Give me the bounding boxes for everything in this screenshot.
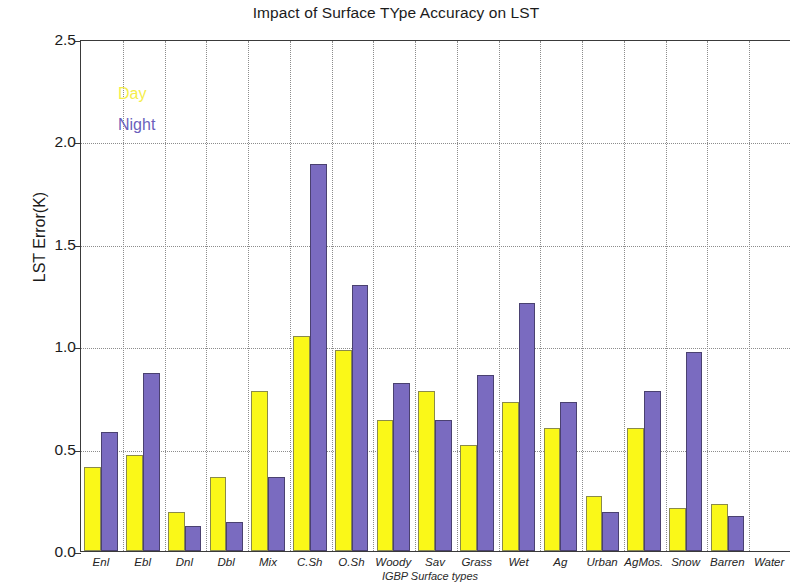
bar-night <box>644 391 661 551</box>
bar-day <box>418 391 435 551</box>
bar-group <box>206 41 248 551</box>
bar-day <box>210 477 227 551</box>
bar-group <box>290 41 332 551</box>
bar-group <box>624 41 666 551</box>
x-axis-label: IGBP Surface types <box>80 570 780 582</box>
bar-day <box>460 445 477 551</box>
bar-group <box>582 41 624 551</box>
bar-night <box>602 512 619 551</box>
y-tick-label: 1.0 <box>6 338 76 356</box>
plot-area <box>80 40 790 552</box>
bar-group <box>332 41 374 551</box>
legend-item-night: Night <box>118 109 155 140</box>
bar-day <box>586 496 603 551</box>
y-tick-label: 1.5 <box>6 236 76 254</box>
bar-day <box>502 402 519 552</box>
bar-night <box>435 420 452 551</box>
bar-night <box>519 303 536 551</box>
bar-night <box>268 477 285 551</box>
bar-night <box>560 402 577 552</box>
bar-group <box>707 41 749 551</box>
bar-day <box>377 420 394 551</box>
bar-day <box>544 428 561 551</box>
bar-group <box>165 41 207 551</box>
bar-day <box>168 512 185 551</box>
x-tick-label: C.Sh <box>297 556 323 568</box>
x-tick-label: Snow <box>671 556 700 568</box>
x-tick-label: Dnl <box>176 556 193 568</box>
x-tick-label: Sav <box>425 556 445 568</box>
bar-series-container <box>81 41 790 551</box>
bar-night <box>143 373 160 551</box>
bar-group <box>540 41 582 551</box>
x-tick-label: Woody <box>375 556 411 568</box>
bar-group <box>666 41 708 551</box>
bar-group <box>457 41 499 551</box>
bar-night <box>310 164 327 551</box>
x-tick-label: Mix <box>259 556 277 568</box>
bar-group <box>749 41 791 551</box>
y-tick-label: 0.0 <box>6 543 76 561</box>
x-tick-label: Dbl <box>218 556 235 568</box>
bar-day <box>293 336 310 551</box>
x-tick-label: Water <box>754 556 784 568</box>
bar-night <box>101 432 118 551</box>
x-tick-label: Barren <box>710 556 745 568</box>
y-tick-label: 0.5 <box>6 441 76 459</box>
chart-title: Impact of Surface TYpe Accuracy on LST <box>0 4 792 22</box>
bar-night <box>393 383 410 551</box>
x-tick-label: Ag <box>553 556 567 568</box>
x-tick-label: O.Sh <box>338 556 364 568</box>
bar-group <box>81 41 123 551</box>
bar-night <box>185 526 202 551</box>
bar-night <box>686 352 703 551</box>
legend-item-day: Day <box>118 78 155 109</box>
bar-day <box>84 467 101 551</box>
bar-day <box>711 504 728 551</box>
chart-legend: Day Night <box>118 78 155 140</box>
x-tick-label: Ebl <box>134 556 151 568</box>
bar-day <box>251 391 268 551</box>
bar-night <box>477 375 494 551</box>
x-tick-label: Wet <box>508 556 528 568</box>
bar-night <box>352 285 369 551</box>
x-tick-label: Urban <box>586 556 617 568</box>
x-tick-label: Enl <box>93 556 110 568</box>
bar-day <box>627 428 644 551</box>
bar-day <box>669 508 686 551</box>
chart-figure: Impact of Surface TYpe Accuracy on LST L… <box>0 0 792 588</box>
bar-night <box>226 522 243 551</box>
bar-day <box>335 350 352 551</box>
x-tick-label: Grass <box>461 556 492 568</box>
y-tick-label: 2.0 <box>6 133 76 151</box>
bar-group <box>248 41 290 551</box>
bar-night <box>728 516 745 551</box>
y-tick-label: 2.5 <box>6 31 76 49</box>
bar-group <box>373 41 415 551</box>
x-tick-label: AgMos. <box>624 556 663 568</box>
bar-group <box>415 41 457 551</box>
bar-day <box>126 455 143 551</box>
bar-group <box>499 41 541 551</box>
